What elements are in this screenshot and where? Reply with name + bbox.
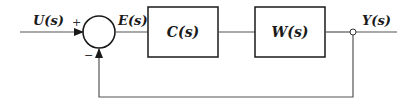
error-label: E(s) — [117, 13, 148, 28]
summing-junction — [83, 16, 115, 48]
minus-sign: − — [84, 49, 93, 62]
output-label: Y(s) — [362, 13, 391, 28]
controller-label: C(s) — [167, 24, 199, 40]
pickoff-point — [350, 29, 356, 35]
plus-sign: + — [72, 16, 81, 29]
plant-label: W(s) — [272, 24, 309, 40]
input-label: U(s) — [33, 13, 64, 28]
block-diagram: U(s) + − E(s) C(s) W(s) Y(s) — [0, 0, 415, 105]
